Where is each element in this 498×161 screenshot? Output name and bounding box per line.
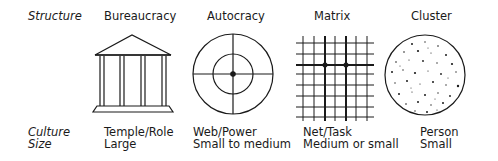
web-icon — [193, 34, 273, 114]
diagram-drawings — [0, 0, 498, 161]
temple-icon — [93, 35, 173, 112]
cluster-icon — [385, 35, 465, 115]
net-icon — [296, 36, 374, 121]
